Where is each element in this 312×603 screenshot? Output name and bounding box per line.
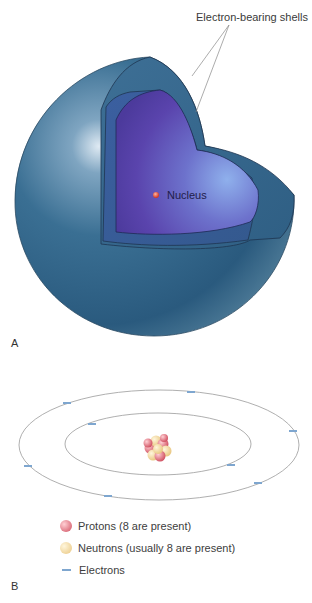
legend-item-electrons: Electrons xyxy=(60,562,125,578)
nucleus-dot-icon xyxy=(153,192,159,198)
electron-dash-icon xyxy=(187,391,195,393)
callout-line-outer xyxy=(192,25,229,76)
nucleus-label: Nucleus xyxy=(167,189,207,201)
electron-dash-icon xyxy=(88,423,96,425)
proton-sphere-icon xyxy=(60,520,72,532)
callout-line-inner xyxy=(196,25,229,112)
nucleus-cluster-icon xyxy=(144,434,172,462)
cutaway-sphere-illustration xyxy=(0,0,312,345)
inner-orbit-electrons xyxy=(88,423,235,466)
inner-orbit xyxy=(65,413,251,475)
outer-orbit-electrons xyxy=(24,391,297,497)
panel-letter-b: B xyxy=(11,580,18,592)
electron-dash-icon xyxy=(254,482,262,484)
panel-letter-a: A xyxy=(11,337,18,349)
electron-dash-icon xyxy=(63,402,71,404)
callout-label-shells: Electron-bearing shells xyxy=(196,11,308,23)
legend-item-neutrons: Neutrons (usually 8 are present) xyxy=(60,540,235,556)
legend-label-electrons: Electrons xyxy=(79,564,125,576)
neutron-sphere-icon xyxy=(60,542,72,554)
electron-dash-icon xyxy=(24,465,32,467)
electron-dash-icon xyxy=(289,430,297,432)
electron-dash-icon xyxy=(104,495,112,497)
electron-dash-icon xyxy=(227,464,235,466)
legend-item-protons: Protons (8 are present) xyxy=(60,518,191,534)
electron-dash-icon xyxy=(62,569,71,571)
legend-label-neutrons: Neutrons (usually 8 are present) xyxy=(78,542,235,554)
outer-orbit xyxy=(19,390,299,500)
legend-label-protons: Protons (8 are present) xyxy=(78,520,191,532)
